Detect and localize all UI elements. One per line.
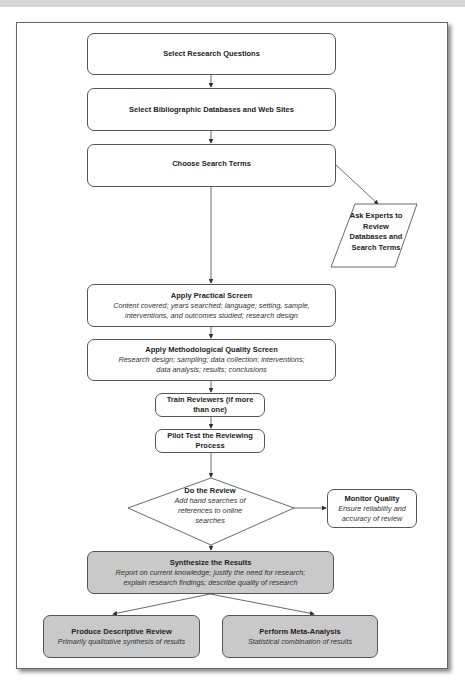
step-detail: Research design; sampling; data collecti… [118,355,304,365]
side-input-label: Ask Experts to Review Databases and Sear… [340,211,412,253]
step-title: Process [195,441,224,451]
step-title: Apply Methodological Quality Screen [145,345,278,355]
monitor-detail: accuracy of review [342,514,402,524]
synthesize-title: Synthesize the Results [170,558,252,568]
monitor-quality-box: Monitor Quality Ensure reliability and a… [327,489,417,528]
decision-detail: searches [150,516,270,526]
synthesize-detail: Report on current knowledge; justify the… [116,568,306,578]
step-title: than one) [193,405,227,415]
step-title: Choose Search Terms [172,159,251,169]
step-practical-screen: Apply Practical Screen Content covered; … [87,284,336,327]
step-detail: data analysis; results; conclusions [156,365,266,375]
decision-detail: references to online [150,506,270,516]
monitor-title: Monitor Quality [345,494,400,504]
decision-title: Do the Review [150,486,270,496]
decision-detail: Add hand searches of [150,496,270,506]
output-title: Produce Descriptive Review [71,627,171,637]
step-choose-search-terms: Choose Search Terms [87,144,336,187]
step-title: Pilot Test the Reviewing [167,431,253,441]
step-detail: Content covered; years searched; languag… [113,301,310,311]
synthesize-detail: explain research findings; describe qual… [123,578,297,588]
step-title: Train Reviewers (if more [167,395,254,405]
step-title: Apply Practical Screen [171,291,252,301]
output-detail: Primarily qualitative synthesis of resul… [58,637,185,647]
decision-label: Do the Review Add hand searches of refer… [150,486,270,526]
step-methodological-screen: Apply Methodological Quality Screen Rese… [87,339,336,381]
step-title: Select Research Questions [163,49,260,59]
step-train-reviewers: Train Reviewers (if more than one) [155,393,265,417]
step-select-research-questions: Select Research Questions [87,33,336,75]
side-input-line: Databases and [340,232,412,243]
step-select-databases: Select Bibliographic Databases and Web S… [87,88,336,131]
output-detail: Statistical combination of results [248,637,352,647]
step-detail: interventions, and outcomes studied; res… [125,311,298,321]
step-pilot-test: Pilot Test the Reviewing Process [155,429,265,453]
meta-analysis-box: Perform Meta-Analysis Statistical combin… [222,615,378,658]
synthesize-results-box: Synthesize the Results Report on current… [87,551,334,594]
side-input-line: Search Terms [340,243,412,254]
monitor-detail: Ensure reliability and [338,504,406,514]
descriptive-review-box: Produce Descriptive Review Primarily qua… [43,615,200,658]
side-input-line: Ask Experts to [340,211,412,222]
side-input-line: Review [340,222,412,233]
step-title: Select Bibliographic Databases and Web S… [129,105,294,115]
output-title: Perform Meta-Analysis [259,627,340,637]
